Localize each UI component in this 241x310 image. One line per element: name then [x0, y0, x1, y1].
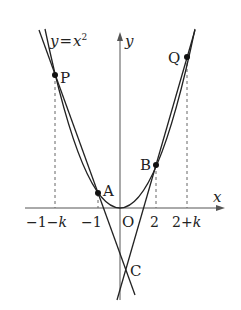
x-axis-label: x — [213, 188, 222, 206]
label-Q: Q — [168, 49, 180, 67]
label-B: B — [140, 156, 151, 174]
point-A — [95, 190, 101, 196]
label-C: C — [130, 262, 141, 280]
point-B — [153, 162, 159, 168]
dashed-guides — [55, 57, 187, 208]
tick-2: 2 — [150, 214, 159, 230]
label-A: A — [102, 182, 114, 200]
label-P: P — [60, 69, 70, 87]
line-PC — [39, 30, 135, 295]
tick-neg1-minus-k: −1−k — [26, 214, 67, 230]
y-axis-label: y — [124, 32, 134, 50]
point-P — [52, 72, 58, 78]
curve-label: y=x2 — [49, 32, 87, 50]
point-Q — [184, 54, 190, 60]
tick-2-plus-k: 2+k — [172, 214, 201, 230]
origin-label: O — [122, 213, 134, 231]
y-axis-arrow-icon — [117, 32, 123, 41]
parabola-diagram: y=x2 y x P Q A B C O −1−k −1 2 2+k — [0, 0, 241, 310]
tick-neg1: −1 — [81, 214, 102, 230]
